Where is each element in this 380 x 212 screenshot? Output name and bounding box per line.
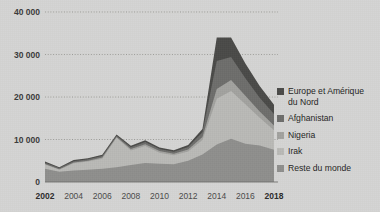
x-tick-label: 2008 [121, 191, 140, 201]
x-tick-label: 2006 [93, 191, 112, 201]
legend-swatch-icon [277, 115, 284, 122]
y-tick-label: 40 000 [14, 7, 40, 17]
legend-item[interactable]: Europe et Amérique du Nord [277, 86, 380, 107]
chart-legend: Europe et Amérique du NordAfghanistanNig… [277, 86, 380, 179]
y-tick-label: 0 [35, 177, 40, 187]
stacked-area-series [45, 38, 274, 183]
x-tick-label: 2010 [150, 191, 169, 201]
legend-swatch-icon [277, 132, 284, 139]
x-tick-label: 2012 [179, 191, 198, 201]
y-tick-label: 10 000 [14, 135, 40, 145]
legend-swatch-icon [277, 148, 284, 155]
legend-item[interactable]: Afghanistan [277, 113, 380, 124]
legend-item-label: Nigeria [288, 130, 315, 141]
x-tick-label: 2004 [64, 191, 83, 201]
legend-swatch-icon [277, 165, 284, 172]
legend-item[interactable]: Irak [277, 146, 380, 157]
y-tick-label: 20 000 [14, 92, 40, 102]
x-tick-label: 2002 [36, 191, 55, 201]
legend-item-label: Irak [288, 146, 302, 157]
y-tick-label: 30 000 [14, 50, 40, 60]
legend-item[interactable]: Nigeria [277, 130, 380, 141]
x-tick-label: 2016 [236, 191, 255, 201]
legend-item-label: Afghanistan [288, 113, 333, 124]
x-axis-tick-labels: 200220042006200820102012201420162018 [36, 191, 284, 201]
legend-swatch-icon [277, 88, 284, 95]
x-tick-label: 2018 [265, 191, 284, 201]
x-tick-label: 2014 [207, 191, 226, 201]
y-axis-tick-labels: 010 00020 00030 00040 000 [14, 7, 40, 187]
legend-item-label: Europe et Amérique du Nord [288, 86, 364, 107]
legend-item[interactable]: Reste du monde [277, 163, 380, 174]
area-chart: 010 00020 00030 00040 000 20022004200620… [0, 0, 380, 212]
legend-item-label: Reste du monde [288, 163, 351, 174]
